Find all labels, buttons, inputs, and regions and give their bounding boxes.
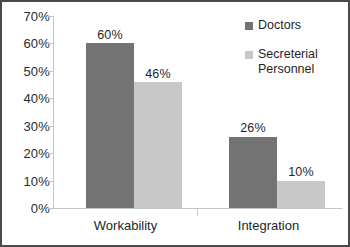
- legend-item-doctors[interactable]: Doctors: [245, 18, 345, 33]
- y-tick-mark-50: [48, 71, 53, 72]
- y-tick-label-30: 30%: [6, 118, 50, 133]
- legend-label-secretarial-line2: Personnel: [258, 62, 314, 76]
- legend-item-secretarial[interactable]: Secreterial Personnel: [245, 47, 345, 77]
- bar-workability-doctors[interactable]: [86, 43, 134, 208]
- bar-label-integration-secretarial: 10%: [277, 165, 325, 179]
- y-tick-label-40: 40%: [6, 91, 50, 106]
- bar-label-integration-doctors: 26%: [229, 121, 277, 135]
- y-tick-mark-20: [48, 153, 53, 154]
- y-tick-mark-10: [48, 181, 53, 182]
- category-separator-tick: [197, 209, 198, 216]
- legend-label-secretarial-line1: Secreterial: [258, 47, 318, 61]
- bar-label-workability-secretarial: 46%: [134, 67, 182, 81]
- legend-swatch-icon-secretarial: [245, 51, 253, 59]
- y-tick-mark-70: [48, 16, 53, 17]
- y-tick-label-50: 50%: [6, 63, 50, 78]
- y-tick-label-60: 60%: [6, 36, 50, 51]
- y-tick-label-20: 20%: [6, 146, 50, 161]
- bar-integration-secretarial[interactable]: [277, 181, 325, 208]
- y-tick-mark-30: [48, 126, 53, 127]
- bar-chart: 70% 60% 50% 40% 30% 20% 10% 0% 60% 46% 2…: [0, 0, 350, 247]
- legend-label-doctors: Doctors: [258, 18, 301, 33]
- bar-integration-doctors[interactable]: [229, 137, 277, 208]
- y-tick-label-70: 70%: [6, 9, 50, 24]
- category-label-workability: Workability: [54, 218, 197, 233]
- y-tick-mark-60: [48, 43, 53, 44]
- bar-workability-secretarial[interactable]: [134, 82, 182, 208]
- y-tick-mark-0: [48, 208, 53, 209]
- y-tick-mark-40: [48, 98, 53, 99]
- bar-label-workability-doctors: 60%: [86, 28, 134, 42]
- legend-swatch-icon-doctors: [245, 22, 253, 30]
- x-axis: Workability Integration: [54, 209, 342, 239]
- category-label-integration: Integration: [197, 218, 340, 233]
- y-tick-label-0: 0%: [6, 201, 50, 216]
- y-axis: 70% 60% 50% 40% 30% 20% 10% 0%: [6, 16, 50, 208]
- legend-label-secretarial: Secreterial Personnel: [258, 47, 318, 77]
- y-tick-label-10: 10%: [6, 173, 50, 188]
- bar-group-workability: 60% 46%: [54, 16, 197, 208]
- legend: Doctors Secreterial Personnel: [245, 18, 345, 91]
